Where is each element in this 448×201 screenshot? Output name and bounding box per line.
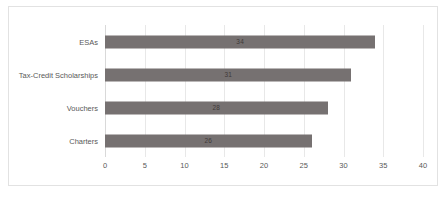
category-label: Tax-Credit Scholarships [19, 70, 98, 79]
x-tick-label: 10 [180, 161, 188, 170]
bar-row: 26Charters [105, 124, 423, 157]
bar-value-label: 28 [212, 104, 220, 111]
x-tick-label: 0 [103, 161, 107, 170]
x-tick-label: 25 [300, 161, 308, 170]
bar-value-label: 34 [236, 38, 244, 45]
bar-track: 26 [105, 134, 423, 147]
chart-frame: 34ESAs31Tax-Credit Scholarships28Voucher… [8, 6, 438, 186]
x-tick-label: 20 [260, 161, 268, 170]
gridline [423, 25, 424, 157]
bar-track: 34 [105, 35, 423, 48]
bar-row: 31Tax-Credit Scholarships [105, 58, 423, 91]
x-tick-label: 30 [339, 161, 347, 170]
bar-row: 34ESAs [105, 25, 423, 58]
bar-track: 28 [105, 101, 423, 114]
x-tick-label: 15 [220, 161, 228, 170]
category-label: Vouchers [67, 103, 98, 112]
category-label: ESAs [79, 37, 98, 46]
x-tick-label: 35 [379, 161, 387, 170]
bar-value-label: 31 [224, 71, 232, 78]
category-label: Charters [69, 136, 98, 145]
bar-value-label: 26 [205, 137, 213, 144]
plot-area: 34ESAs31Tax-Credit Scholarships28Voucher… [105, 25, 423, 157]
x-axis: 0510152025303540 [105, 161, 423, 173]
bar-row: 28Vouchers [105, 91, 423, 124]
x-tick-label: 5 [143, 161, 147, 170]
bar-series: 34ESAs31Tax-Credit Scholarships28Voucher… [105, 25, 423, 157]
bar-track: 31 [105, 68, 423, 81]
x-tick-label: 40 [419, 161, 427, 170]
